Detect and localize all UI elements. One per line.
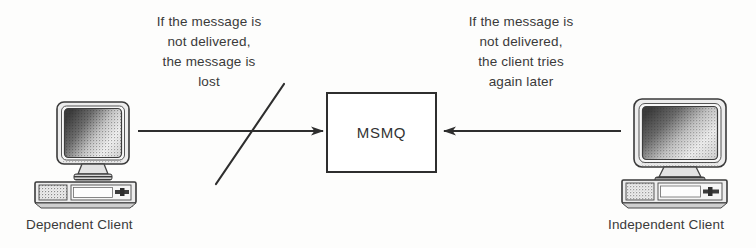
caption-line: If the message is	[442, 12, 600, 32]
caption-line: the message is	[130, 52, 288, 72]
caption-line: not delivered,	[130, 32, 288, 52]
caption-line: again later	[442, 72, 600, 92]
caption-line: the client tries	[442, 52, 600, 72]
msmq-node[interactable]: MSMQ	[326, 92, 437, 173]
caption-dependent-client: If the message is not delivered, the mes…	[130, 12, 288, 92]
node-label-dependent-client: Dependent Client	[26, 216, 133, 234]
desktop-computer-icon-independent	[606, 96, 736, 210]
caption-independent-client: If the message is not delivered, the cli…	[442, 12, 600, 92]
desktop-computer-icon-dependent	[30, 98, 150, 210]
node-label-independent-client: Independent Client	[608, 216, 724, 234]
caption-line: not delivered,	[442, 32, 600, 52]
diagram-canvas: If the message is not delivered, the mes…	[0, 0, 756, 248]
caption-line: If the message is	[130, 12, 288, 32]
msmq-node-label: MSMQ	[357, 124, 406, 141]
caption-line: lost	[130, 72, 288, 92]
diagonal-slash-icon	[216, 84, 284, 184]
